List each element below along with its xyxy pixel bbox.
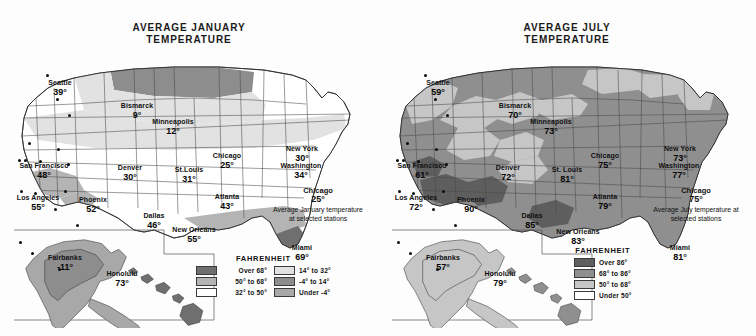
city-temperature-value: 73° [654,154,706,162]
city-label-miami[interactable]: Miami81° [654,244,706,261]
city-temperature-value: 57° [417,263,469,271]
legend-columns: Over 86°68° to 86°50° to 68°Under 50° [574,258,632,300]
city-label-bismarck[interactable]: Bismarck70° [489,102,541,119]
legend-item[interactable]: 32° to 50° [196,288,267,297]
city-label-seattle[interactable]: Seattle59° [412,79,464,96]
city-label-fairbanks[interactable]: Fairbanks-11° [39,254,91,271]
legend-item[interactable]: Over 68° [196,266,267,275]
city-name: Minneapolis [147,118,199,126]
legend-label: Under -4° [299,289,330,296]
hawaii-island [156,282,171,294]
city-name: Honolulu [96,270,148,278]
legend-swatch [196,288,217,297]
city-marker-dot [397,241,400,244]
legend-column: 14° to 32°-4° to 14°Under -4° [274,266,331,297]
hawaii-island [550,294,562,303]
hawaii-island [558,303,581,325]
city-name: Miami [654,244,706,252]
city-label-honolulu[interactable]: Honolulu73° [96,270,148,287]
annotation-value: 25° [272,195,364,204]
city-marker-dot [34,192,37,195]
legend-label: 68° to 86° [599,270,631,277]
city-marker-dot [57,148,60,151]
city-name: Fairbanks [39,254,91,262]
legend-title: FAHRENHEIT [196,254,331,263]
city-label-atlanta[interactable]: Atlanta43° [201,193,253,210]
city-temperature-value: 85° [506,221,558,229]
city-temperature-value: 81° [654,253,706,261]
city-marker-dot [67,163,70,166]
city-label-phoenix[interactable]: Phoenix90° [445,196,497,213]
city-temperature-value: 39° [34,88,86,96]
map-title: AVERAGE JULYTEMPERATURE [378,22,756,46]
legend-item[interactable]: 14° to 32° [274,266,331,275]
city-marker-dot [424,74,427,77]
legend-column: Over 68°50° to 68°32° to 50° [196,266,267,297]
city-label-san-francisco[interactable]: San Francisco61° [396,162,448,179]
map-title-line-2: TEMPERATURE [146,34,231,45]
city-label-san-francisco[interactable]: San Francisco48° [18,162,70,179]
legend-label: 50° to 68° [221,278,267,285]
legend-swatch [574,269,595,278]
city-label-st-louis[interactable]: St. Louis81° [541,166,593,183]
city-label-washington[interactable]: Washington34° [275,162,327,179]
city-marker-dot [68,114,71,117]
city-temperature-value: 59° [412,88,464,96]
city-temperature-value: 79° [474,279,526,287]
city-label-washington[interactable]: Washington77° [653,162,705,179]
city-label-denver[interactable]: Denver30° [104,164,156,181]
city-name: New York [276,145,328,153]
city-temperature-value: 83° [552,237,604,245]
city-label-bismarck[interactable]: Bismarck9° [111,102,163,119]
city-label-atlanta[interactable]: Atlanta79° [579,193,631,210]
alaska-shape [88,299,145,328]
city-label-fairbanks[interactable]: Fairbanks57° [417,254,469,271]
city-name: Bismarck [111,102,163,110]
city-name: Miami [276,244,328,252]
city-label-new-orleans[interactable]: New Orleans55° [168,226,220,243]
city-marker-dot [46,74,49,77]
city-label-minneapolis[interactable]: Minneapolis12° [147,118,199,135]
city-temperature-value: 81° [541,175,593,183]
city-label-denver[interactable]: Denver72° [482,164,534,181]
city-marker-dot [445,163,448,166]
legend-item[interactable]: Under -4° [274,288,331,297]
city-marker-dot [409,252,412,255]
city-label-st-louis[interactable]: St.Louis31° [163,166,215,183]
city-marker-dot [398,190,401,193]
legend-item[interactable]: 68° to 86° [574,269,632,278]
city-label-new-orleans[interactable]: New Orleans83° [552,228,604,245]
legend-item[interactable]: 50° to 68° [196,277,267,286]
city-name: Fairbanks [417,254,469,262]
city-label-new-york[interactable]: New York30° [276,145,328,162]
city-marker-dot [435,148,438,151]
city-label-seattle[interactable]: Seattle39° [34,79,86,96]
city-label-phoenix[interactable]: Phoenix52° [67,196,119,213]
legend-swatch [274,277,295,286]
legend-swatch [274,266,295,275]
legend-item[interactable]: 50° to 68° [574,280,632,289]
city-name: New Orleans [168,226,220,234]
city-label-new-york[interactable]: New York73° [654,145,706,162]
legend-item[interactable]: -4° to 14° [274,277,331,286]
legend-swatch [196,266,217,275]
map-panel-july: AVERAGE JULYTEMPERATURESeattle59°Bismarc… [378,0,756,336]
map-panel-january: AVERAGE JANUARYTEMPERATURESeattle39°Bism… [0,0,378,336]
city-name: Honolulu [474,270,526,278]
annotation-value: 75° [650,195,742,204]
city-label-minneapolis[interactable]: Minneapolis73° [525,118,577,135]
annotation-description: Average January temperature at selected … [272,206,364,223]
city-label-dallas[interactable]: Dallas85° [506,212,558,229]
city-name: Atlanta [201,193,253,201]
city-temperature-value: 52° [67,205,119,213]
city-marker-dot [28,142,31,145]
legend-swatch [574,258,595,267]
legend-item[interactable]: Under 50° [574,291,632,300]
legend-item[interactable]: Over 86° [574,258,632,267]
city-name: Seattle [412,79,464,87]
city-name: St. Louis [541,166,593,174]
city-marker-dot [64,190,67,193]
city-temperature-value: 48° [18,171,70,179]
city-label-honolulu[interactable]: Honolulu79° [474,270,526,287]
city-name: Los Angeles [390,194,442,202]
